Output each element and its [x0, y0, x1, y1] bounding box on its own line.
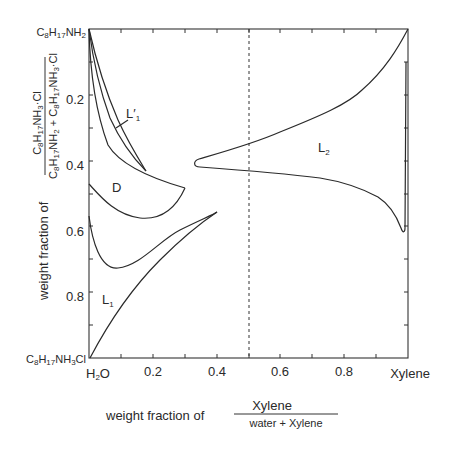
curve-d-upper [89, 29, 185, 188]
y-bottom-label: C8H17NH3Cl [26, 353, 86, 367]
curve-l1prime-upper [89, 29, 146, 171]
y-tick-label: 0.2 [66, 92, 84, 107]
curve-d-lower [89, 184, 185, 218]
y-tick-label: 0.4 [66, 158, 84, 173]
curve-l1-upper [89, 212, 217, 268]
phase-diagram: L′1 D L1 L2 0.2 0.4 0.6 0.8 C8H17NH2 C8H… [0, 0, 449, 452]
x-tick-label: 0.2 [144, 364, 162, 379]
y-axis-title-numerator: C8H17NH3·Cl [31, 91, 45, 155]
region-label-l1prime: L′1 [126, 106, 141, 123]
y-axis-title-denominator: C8H17NH2 + C8H17NH3·Cl [47, 53, 61, 179]
region-label-l1: L1 [102, 292, 114, 309]
x-axis-title-numerator: Xylene [252, 398, 292, 413]
x-axis-title-prefix: weight fraction of [105, 408, 205, 423]
curve-l1-lower [90, 212, 217, 358]
x-tick-label: 0.6 [271, 364, 289, 379]
y-tick-label: 0.6 [66, 224, 84, 239]
x-left-label: H2O [86, 366, 110, 382]
x-right-label: Xylene [390, 366, 430, 381]
region-label-d: D [112, 180, 121, 195]
region-label-l2: L2 [318, 140, 330, 157]
y-top-label: C8H17NH2 [36, 26, 86, 40]
x-tick-label: 0.8 [335, 364, 353, 379]
y-axis-title-prefix: weight fraction of [36, 201, 51, 301]
curve-l2-upper [199, 29, 408, 159]
x-tick-label: 0.4 [208, 364, 226, 379]
y-axis-title: weight fraction of C8H17NH3·Cl C8H17NH2 … [31, 53, 61, 301]
curve-l2-lower [195, 62, 406, 232]
curve-l1prime-lower [89, 29, 146, 171]
y-tick-label: 0.8 [66, 289, 84, 304]
x-axis-title-denominator: water + Xylene [248, 417, 322, 429]
l1prime-pointer [116, 120, 128, 128]
